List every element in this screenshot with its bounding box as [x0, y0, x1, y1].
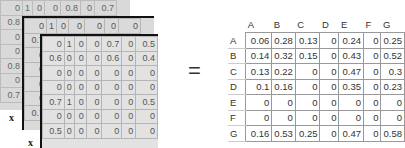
matrix-cell: 0.8 [61, 1, 81, 16]
result-cell: 0 [339, 95, 364, 111]
result-cell: 0.16 [272, 79, 296, 95]
result-row: B0.140.320.1500.4300.52 [228, 48, 405, 64]
result-cell: 0 [381, 95, 405, 111]
matrix-cell: 0 [45, 1, 61, 16]
result-cell: 0.16 [246, 126, 272, 142]
result-cell: 0.58 [381, 126, 405, 142]
matrix-cell: 0.5 [43, 124, 65, 139]
result-cell: 0 [381, 110, 405, 126]
result-cell: 0.47 [339, 126, 364, 142]
matrix-cell: 0 [136, 124, 158, 139]
matrix-cell: 0 [33, 1, 45, 16]
result-row: C0.130.22000.4700.3 [228, 64, 405, 80]
result-cell: 0 [295, 95, 320, 111]
matrix-cell: 0 [85, 19, 105, 34]
matrix-cell: 0 [74, 109, 86, 124]
row-header: F [228, 110, 246, 126]
result-cell: 0 [320, 33, 339, 49]
result-cell: 0.28 [272, 33, 296, 49]
result-cell: 0.22 [272, 64, 296, 80]
matrix-cell: 1 [64, 37, 74, 52]
matrix-cell: 0 [1, 1, 23, 16]
matrix-cell: 0 [105, 19, 119, 34]
matrix-cell: 0.8 [1, 15, 23, 30]
column-header: G [381, 17, 405, 33]
matrix-cell: 0 [1, 73, 23, 88]
matrix-cell: 0 [86, 80, 102, 95]
matrix-cell: 0 [1, 44, 23, 59]
result-cell: 0 [320, 79, 339, 95]
result-cell: 0.25 [381, 33, 405, 49]
result-table: ABCDEFG A0.060.280.1300.2400.25B0.140.32… [228, 17, 405, 142]
matrix-row: 0000000 [43, 80, 158, 95]
matrix-cell: 0 [86, 109, 102, 124]
matrix-row: 0000000 [43, 66, 158, 81]
matrix-cell: 0 [43, 109, 65, 124]
row-header: B [228, 48, 246, 64]
matrix-cell: 0 [43, 80, 65, 95]
row-header: E [228, 95, 246, 111]
matrix-cell: 0 [102, 109, 122, 124]
result-cell: 0.14 [246, 48, 272, 64]
result-row: G0.160.530.2500.4700.58 [228, 126, 405, 142]
result-cell: 0 [364, 48, 381, 64]
matrix-row: 0100000 [25, 19, 141, 34]
matrix-row: 01000.700.5 [43, 37, 158, 52]
result-cell: 0 [364, 110, 381, 126]
result-cell: 0.52 [381, 48, 405, 64]
matrix-row: 01000.800.7 [1, 1, 117, 16]
matrix-cell: 0 [64, 51, 74, 66]
result-cell: 0 [295, 79, 320, 95]
matrix-cell: 0 [102, 80, 122, 95]
result-row: F0000000 [228, 110, 405, 126]
result-cell: 0 [364, 79, 381, 95]
result-cell: 0.3 [381, 64, 405, 80]
matrix-cell: 0.7 [1, 88, 23, 103]
equals-sign: = [188, 58, 201, 84]
matrix-cell: 0 [136, 66, 158, 81]
matrix-cell: 0 [74, 80, 86, 95]
column-header: B [272, 17, 296, 33]
result-table-container: ABCDEFG A0.060.280.1300.2400.25B0.140.32… [228, 17, 405, 142]
result-cell: 0.1 [246, 79, 272, 95]
matrix-cell: 0 [86, 51, 102, 66]
result-cell: 0 [272, 110, 296, 126]
matrix-cell: 0 [122, 66, 136, 81]
matrix-cell: 0 [122, 109, 136, 124]
row-header: A [228, 33, 246, 49]
matrix-cell: 0 [64, 80, 74, 95]
result-cell: 0.13 [246, 64, 272, 80]
row-header: C [228, 64, 246, 80]
result-row: A0.060.280.1300.2400.25 [228, 33, 405, 49]
multiply-label-back: x [9, 112, 14, 123]
result-cell: 0.32 [272, 48, 296, 64]
matrix-cell: 0 [102, 124, 122, 139]
matrix-cell: 1 [64, 95, 74, 110]
result-cell: 0.15 [295, 48, 320, 64]
matrix-cell: 0 [102, 66, 122, 81]
matrix-cell: 0.5 [136, 95, 158, 110]
result-cell: 0 [246, 110, 272, 126]
matrix-cell: 0 [136, 109, 158, 124]
result-cell: 0.25 [295, 126, 320, 142]
result-cell: 0 [320, 48, 339, 64]
result-cell: 0 [320, 95, 339, 111]
result-cell: 0.24 [339, 33, 364, 49]
matrix-cell: 0 [86, 66, 102, 81]
matrix-cell: 0 [86, 37, 102, 52]
row-header: G [228, 126, 246, 142]
result-cell: 0 [246, 95, 272, 111]
matrix-cell: 0.5 [136, 37, 158, 52]
matrix-cell: 0.8 [1, 59, 23, 74]
row-header: D [228, 79, 246, 95]
matrix-row: 0.60000.600.4 [43, 51, 158, 66]
result-cell: 0 [295, 110, 320, 126]
matrix-cell: 0.6 [102, 51, 122, 66]
result-cell: 0 [320, 126, 339, 142]
matrix-cell: 0 [122, 124, 136, 139]
matrix-cell: 0 [122, 95, 136, 110]
matrix-cell: 0 [43, 66, 65, 81]
matrix-cell: 0.4 [136, 51, 158, 66]
matrix-cell: 0 [64, 109, 74, 124]
result-cell: 0.13 [295, 33, 320, 49]
